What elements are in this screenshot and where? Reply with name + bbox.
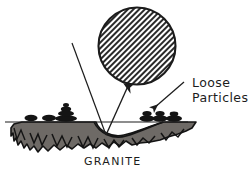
diagram-canvas: Loose Particles GRANITE (0, 0, 249, 175)
loose-particles-pointer-arrow (154, 82, 184, 108)
hatched-circle (99, 8, 176, 85)
granite-label: GRANITE (84, 155, 142, 168)
reflection-diagram: Loose Particles GRANITE (0, 0, 249, 175)
reflected-ray (106, 86, 128, 135)
hatched-circle-outline (99, 8, 176, 85)
pebble-cluster-right-outer (166, 112, 182, 122)
pebble-cluster-right (140, 111, 168, 122)
pebble-cluster-stack (55, 103, 77, 122)
loose-particles-label-line1: Loose (192, 75, 230, 90)
pebble-cluster-left-mid (42, 115, 56, 122)
pebble-cluster-left (25, 115, 38, 121)
loose-particles-label-line2: Particles (192, 90, 248, 105)
granite-body (11, 122, 196, 152)
